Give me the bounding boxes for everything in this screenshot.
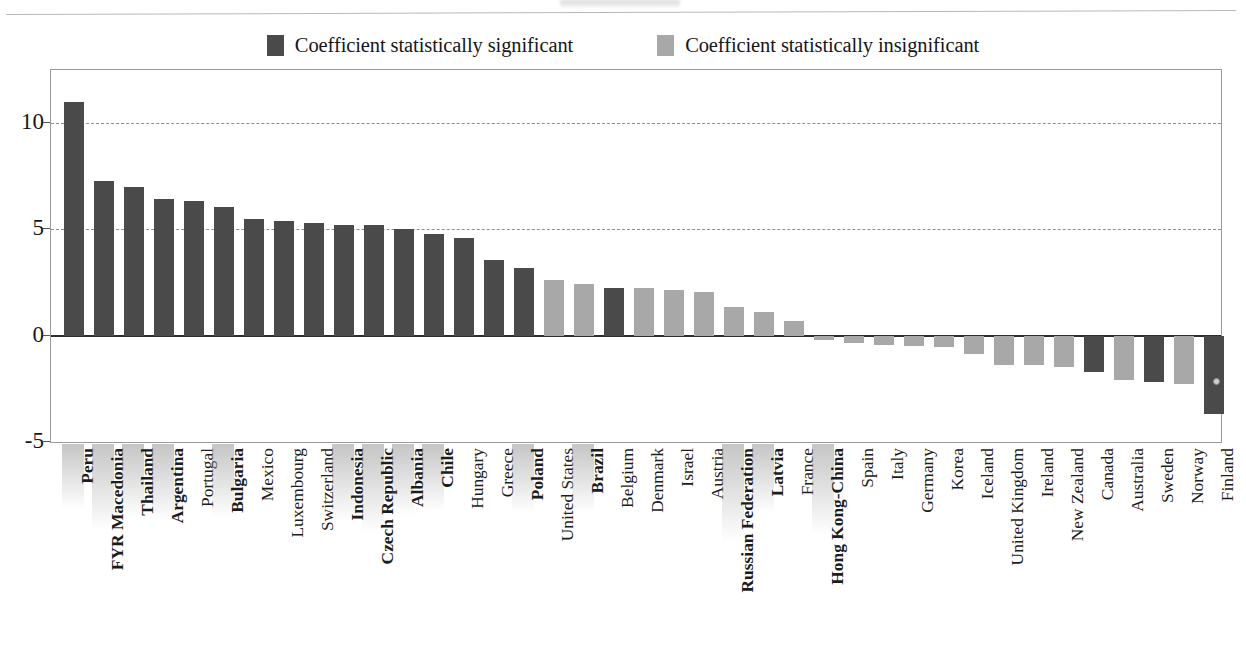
x-tick-label-germany: Germany [919, 448, 936, 513]
y-tick-label-0: 0 [2, 322, 44, 348]
bar-fyr-macedonia [94, 181, 114, 336]
bar-united-kingdom [994, 336, 1014, 366]
x-axis-labels: PeruFYR MacedoniaThailandArgentinaPortug… [50, 444, 1222, 654]
bar-poland [514, 268, 534, 336]
legend-label: Coefficient statistically significant [295, 35, 573, 56]
y-tick-label--5: -5 [2, 428, 44, 454]
bar-chile [424, 234, 444, 336]
bar-new-zealand [1054, 336, 1074, 367]
x-tick-label-france: France [799, 448, 816, 495]
x-tick-label-portugal: Portugal [199, 448, 216, 507]
bar-switzerland [304, 223, 324, 336]
chart-legend: Coefficient statistically significantCoe… [0, 30, 1246, 60]
x-tick-label-united-kingdom: United Kingdom [1009, 448, 1026, 565]
y-tick-mark-5 [43, 228, 50, 229]
x-tick-label-poland: Poland [529, 448, 546, 500]
bar-canada [1084, 336, 1104, 372]
bar-sweden [1144, 336, 1164, 383]
x-tick-label-austria: Austria [709, 448, 726, 499]
x-tick-label-belgium: Belgium [619, 448, 636, 508]
y-tick-label-10: 10 [2, 109, 44, 135]
bar-bulgaria [214, 207, 234, 336]
bar-italy [874, 336, 894, 346]
x-tick-label-bulgaria: Bulgaria [229, 448, 246, 513]
bar-denmark [634, 288, 654, 336]
scan-speck-artifact [1213, 378, 1220, 385]
bar-germany [904, 336, 924, 347]
x-tick-label-czech-republic: Czech Republic [379, 448, 396, 564]
bar-luxembourg [274, 221, 294, 336]
x-tick-label-united-states: United States [559, 448, 576, 541]
x-tick-label-israel: Israel [679, 448, 696, 487]
y-tick-mark-0 [43, 335, 50, 336]
bar-albania [394, 229, 414, 335]
x-tick-label-hong-kong-china: Hong Kong-China [829, 448, 846, 585]
x-tick-label-australia: Australia [1129, 448, 1146, 512]
legend-swatch-icon [267, 35, 284, 56]
y-tick-mark-10 [43, 122, 50, 123]
top-divider-rule [6, 10, 1236, 15]
x-tick-label-korea: Korea [949, 448, 966, 490]
x-tick-label-chile: Chile [439, 448, 456, 488]
bar-korea [934, 336, 954, 348]
legend-item-insignificant: Coefficient statistically insignificant [657, 35, 979, 56]
bar-thailand [124, 187, 144, 336]
bar-series [51, 70, 1221, 442]
y-tick-mark--5 [43, 441, 50, 442]
bar-austria [694, 292, 714, 336]
x-tick-label-spain: Spain [859, 448, 876, 488]
bar-argentina [154, 199, 174, 336]
legend-label: Coefficient statistically insignificant [685, 35, 979, 56]
bar-united-states [544, 280, 564, 335]
bar-hungary [454, 238, 474, 336]
y-tick-label-5: 5 [2, 215, 44, 241]
plot-inner [51, 70, 1221, 442]
x-tick-label-hungary: Hungary [469, 448, 486, 509]
legend-swatch-icon [657, 35, 674, 56]
x-tick-label-luxembourg: Luxembourg [289, 448, 306, 538]
x-tick-label-fyr-macedonia: FYR Macedonia [109, 448, 126, 570]
x-tick-label-argentina: Argentina [169, 448, 186, 523]
x-tick-label-canada: Canada [1099, 448, 1116, 500]
bar-peru [64, 102, 84, 336]
cropped-title-remnant [560, 0, 680, 9]
bar-ireland [1024, 336, 1044, 366]
bar-greece [484, 260, 504, 335]
x-tick-label-italy: Italy [889, 448, 906, 480]
bar-belgium [604, 288, 624, 336]
bar-norway [1174, 336, 1194, 384]
x-tick-label-thailand: Thailand [139, 448, 156, 516]
x-tick-label-brazil: Brazil [589, 448, 606, 493]
chart-page: Coefficient statistically significantCoe… [0, 0, 1246, 661]
bar-indonesia [334, 225, 354, 336]
bar-spain [844, 336, 864, 343]
x-tick-label-indonesia: Indonesia [349, 448, 366, 521]
x-tick-label-mexico: Mexico [259, 448, 276, 501]
plot-area [50, 69, 1222, 443]
x-tick-label-albania: Albania [409, 448, 426, 507]
bar-brazil [574, 284, 594, 336]
bar-latvia [754, 312, 774, 335]
x-tick-label-norway: Norway [1189, 448, 1206, 504]
legend-item-significant: Coefficient statistically significant [267, 35, 573, 56]
bar-czech-republic [364, 225, 384, 336]
bar-russian-federation [724, 307, 744, 336]
x-tick-label-ireland: Ireland [1039, 448, 1056, 497]
bar-iceland [964, 336, 984, 354]
bar-australia [1114, 336, 1134, 381]
x-tick-label-peru: Peru [79, 448, 96, 484]
x-tick-label-iceland: Iceland [979, 448, 996, 499]
bar-france [784, 321, 804, 336]
x-tick-label-sweden: Sweden [1159, 448, 1176, 503]
bar-portugal [184, 201, 204, 336]
x-tick-label-russian-federation: Russian Federation [739, 448, 756, 592]
x-tick-label-latvia: Latvia [769, 448, 786, 496]
x-tick-label-denmark: Denmark [649, 448, 666, 513]
x-tick-label-switzerland: Switzerland [319, 448, 336, 531]
x-tick-label-finland: Finland [1219, 448, 1236, 501]
bar-hong-kong-china [814, 336, 834, 340]
bar-mexico [244, 219, 264, 336]
x-tick-label-new-zealand: New Zealand [1069, 448, 1086, 541]
x-tick-label-greece: Greece [499, 448, 516, 497]
bar-finland [1204, 336, 1224, 415]
